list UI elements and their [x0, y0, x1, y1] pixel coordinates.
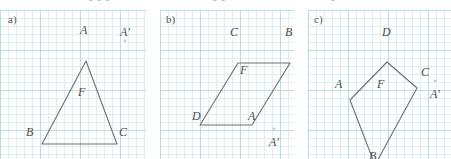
image-point-label-c: A' [430, 88, 440, 100]
vertex-label-c-C: C [421, 66, 429, 78]
vertex-label-b-B: B [285, 26, 292, 38]
interior-label-b: F [240, 64, 247, 76]
panel-c: c) D C B A F A' × [308, 10, 451, 159]
vertex-label-c-D: D [382, 26, 391, 38]
vertex-label-b-D: D [192, 110, 201, 122]
image-point-cross-c: × [433, 78, 437, 85]
interior-label-c: F [377, 78, 384, 90]
figure-container: 0 0 0 0 0 0 a) A B C F A' × b) C B A D F… [0, 0, 451, 159]
interior-label-a: F [78, 86, 85, 98]
image-point-label-b: A' [269, 136, 279, 148]
header-fragment-2: 0 0 [212, 0, 226, 3]
image-point-cross-a: × [123, 38, 127, 45]
panel-c-tag: c) [314, 14, 323, 25]
header-fragment-3: 0 [330, 0, 336, 3]
vertex-label-a-B: B [26, 126, 33, 138]
panel-a: a) A B C F A' × [0, 10, 146, 159]
vertex-label-b-A: A [248, 110, 255, 122]
panel-a-tag: a) [8, 14, 17, 25]
vertex-label-a-C: C [119, 126, 127, 138]
triangle-shape [42, 61, 117, 144]
vertex-label-a-A: A [80, 24, 87, 36]
image-point-cross-b: × [272, 126, 276, 133]
panel-b-tag: b) [166, 14, 175, 25]
vertex-label-c-A: A [335, 78, 342, 90]
cropped-header-strip: 0 0 0 0 0 0 [0, 0, 451, 9]
vertex-label-c-B: B [369, 150, 376, 159]
vertex-label-b-C: C [230, 26, 238, 38]
panel-b: b) C B A D F A' × [160, 10, 294, 159]
header-fragment-1: 0 0 0 [88, 0, 110, 3]
